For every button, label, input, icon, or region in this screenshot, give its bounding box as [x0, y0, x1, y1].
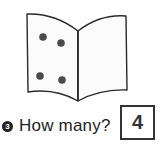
question-text: How many?	[19, 116, 111, 136]
dot-icon	[36, 72, 44, 80]
book-right-page	[78, 16, 127, 101]
dot-icon	[58, 76, 66, 84]
book-left-page	[27, 14, 78, 101]
question-number-badge: 3	[2, 121, 13, 132]
question-row: 3 How many?	[2, 112, 111, 140]
answer-box[interactable]: 4	[120, 105, 155, 140]
open-book-illustration	[0, 0, 160, 110]
dot-icon	[57, 39, 65, 47]
dot-icon	[39, 33, 47, 41]
